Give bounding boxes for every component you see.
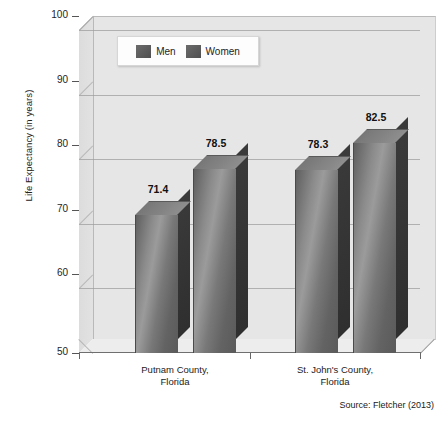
bar-front-face [353, 143, 396, 353]
bar [193, 155, 235, 353]
x-axis-category-label: St. John's County,Florida [265, 364, 405, 388]
bar-side-face [235, 143, 248, 340]
y-axis-tick-mark [72, 274, 79, 275]
bar-front-face [135, 215, 178, 353]
source-note: Source: Fletcher (2013) [339, 400, 434, 410]
y-axis-tick-mark [72, 145, 79, 146]
y-axis-tick-labels: 5060708090100 [28, 0, 72, 424]
legend-label-women: Women [206, 46, 240, 57]
bar-value-label: 71.4 [137, 183, 179, 195]
y-axis-tick-mark [72, 16, 79, 17]
x-axis-tick-mark [250, 353, 251, 359]
bar-value-label: 78.3 [297, 138, 339, 150]
bar [295, 156, 337, 353]
y-axis-tick-label: 90 [28, 74, 68, 85]
bar [135, 201, 177, 353]
x-axis-category-label: Putnam County,Florida [105, 364, 245, 388]
legend-swatch-men [136, 45, 151, 58]
y-axis-tick-mark [72, 81, 79, 82]
x-axis-tick-mark [79, 353, 80, 359]
x-axis-category-line2: Florida [265, 376, 405, 388]
bar-front-face [193, 169, 236, 353]
legend-label-men: Men [156, 46, 175, 57]
bar-front-face [295, 170, 338, 353]
bar-chart: Life Expectancy (in years) 5060708090100… [0, 0, 448, 424]
y-axis-tick-label: 80 [28, 138, 68, 149]
bar-side-face [337, 144, 350, 340]
plot-left-wall [79, 16, 93, 353]
legend-swatch-women [186, 45, 201, 58]
plot-top-left-bevel [79, 16, 95, 32]
y-axis-tick-label: 50 [28, 346, 68, 357]
y-axis-tick-mark [72, 353, 79, 354]
plot-floor-right-bevel [420, 339, 436, 355]
legend-item-men: Men [136, 45, 175, 58]
legend: Men Women [117, 36, 259, 66]
bar-value-label: 82.5 [355, 111, 397, 123]
legend-item-women: Women [186, 45, 240, 58]
x-axis-category-line1: Putnam County, [105, 364, 245, 376]
y-axis-tick-label: 100 [28, 9, 68, 20]
bar-side-face [395, 117, 408, 340]
x-axis-category-line1: St. John's County, [265, 364, 405, 376]
bar [353, 129, 395, 353]
bar-value-label: 78.5 [195, 137, 237, 149]
x-axis-tick-mark [420, 353, 421, 359]
x-axis-category-line2: Florida [105, 376, 245, 388]
y-axis-tick-label: 60 [28, 267, 68, 278]
y-axis-tick-label: 70 [28, 203, 68, 214]
y-axis-tick-mark [72, 210, 79, 211]
